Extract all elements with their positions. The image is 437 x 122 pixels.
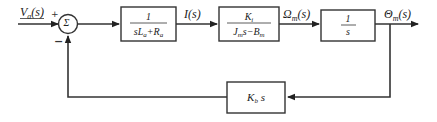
position-signal-label: Θm(s): [384, 7, 411, 23]
block-back-emf: Kb s: [227, 82, 285, 113]
sigma-symbol: Σ: [63, 17, 70, 28]
current-signal-label: I(s): [183, 7, 201, 21]
svg-text:1: 1: [146, 11, 151, 22]
speed-signal-label: Ωm(s): [283, 7, 310, 23]
block-armature: 1 sLa+Ra: [121, 7, 176, 41]
svg-text:s: s: [346, 26, 350, 37]
plus-sign: +: [51, 9, 59, 19]
block-torque: Ki Jms−Bm: [219, 7, 279, 41]
svg-text:1: 1: [346, 13, 351, 24]
minus-sign: −: [54, 35, 63, 48]
block-diagram: Va(s) Σ + − 1 sLa+Ra I(s) Ki Jms−Bm Ωm: [0, 0, 437, 122]
block-integrator: 1 s: [321, 10, 375, 41]
summing-junction: Σ + −: [51, 9, 78, 48]
